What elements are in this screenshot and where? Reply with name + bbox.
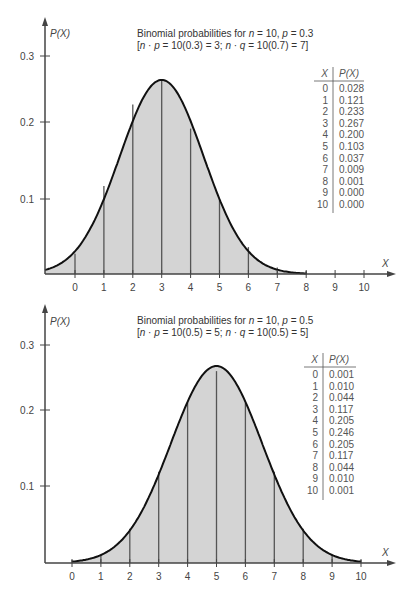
y-tick-label: 0.2	[20, 117, 34, 128]
table-cell-px: 0.001	[329, 485, 354, 496]
table-cell-px: 0.267	[339, 118, 364, 129]
x-axis-arrow-icon	[387, 560, 396, 566]
table-row: 60.037	[322, 153, 364, 164]
table-row: 30.267	[322, 118, 364, 129]
x-axis-label: X	[381, 258, 389, 269]
table-row: 80.044	[312, 462, 354, 473]
x-tick-label: 5	[214, 571, 220, 582]
table-cell-x: 1	[322, 95, 328, 106]
table-cell-x: 3	[312, 404, 318, 415]
x-tick-label: 4	[188, 282, 194, 293]
x-tick-label: 6	[246, 282, 252, 293]
table-row: 00.001	[312, 369, 354, 380]
table-cell-px: 0.246	[329, 427, 354, 438]
x-tick-label: 9	[329, 571, 335, 582]
y-tick-label: 0.3	[20, 340, 34, 351]
table-cell-px: 0.044	[329, 392, 354, 403]
table-cell-x: 0	[312, 369, 318, 380]
shaded-area	[45, 80, 307, 274]
table-row: 20.233	[322, 106, 364, 117]
chart-title: Binomial probabilities for n = 10, p = 0…	[137, 315, 314, 326]
x-tick-label: 6	[243, 571, 249, 582]
table-row: 70.009	[322, 164, 364, 175]
chart-title: Binomial probabilities for n = 10, p = 0…	[137, 28, 314, 39]
table-cell-x: 9	[322, 187, 328, 198]
table-cell-x: 9	[312, 473, 318, 484]
x-tick-label: 1	[101, 282, 107, 293]
table-cell-x: 0	[322, 83, 328, 94]
table-cell-x: 5	[322, 141, 328, 152]
table-row: 50.103	[322, 141, 364, 152]
x-tick-label: 10	[358, 282, 370, 293]
chart-binomial-p05: 0.30.20.1 012345678910 P(X) X Binomial p…	[20, 304, 396, 582]
table-cell-x: 7	[322, 164, 328, 175]
chart-binomial-p03: 0.30.20.1 012345678910 P(X) X Binomial p…	[20, 17, 396, 293]
table-cell-x: 10	[317, 199, 329, 210]
y-axis-arrow-icon	[42, 304, 48, 313]
table-row: 10.121	[322, 95, 364, 106]
x-tick-label: 9	[332, 282, 338, 293]
x-tick-label: 5	[217, 282, 223, 293]
probability-table: X P(X) 00.02810.12120.23330.26740.20050.…	[314, 67, 364, 213]
table-row: 00.028	[322, 83, 364, 94]
x-tick-label: 1	[98, 571, 104, 582]
table-cell-px: 0.044	[329, 462, 354, 473]
y-tick-label: 0.2	[20, 405, 34, 416]
table-row: 40.200	[322, 129, 364, 140]
table-row: 30.117	[312, 404, 353, 415]
table-cell-x: 8	[322, 176, 328, 187]
probability-table: X P(X) 00.00110.01020.04430.11740.20550.…	[304, 353, 356, 500]
binomial-figure: 0.30.20.1 012345678910 P(X) X Binomial p…	[0, 0, 411, 603]
table-cell-px: 0.009	[339, 164, 364, 175]
table-cell-x: 8	[312, 462, 318, 473]
chart-subtitle: [n · p = 10(0.5) = 5; n · q = 10(0.5) = …	[137, 327, 308, 338]
x-tick-label: 7	[272, 571, 278, 582]
table-row: 70.117	[312, 450, 353, 461]
table-row: 50.246	[312, 427, 354, 438]
table-cell-x: 2	[322, 106, 328, 117]
table-row: 10.010	[312, 381, 354, 392]
table-cell-px: 0.205	[329, 415, 354, 426]
x-axis-arrow-icon	[387, 271, 396, 277]
x-tick-label: 0	[69, 571, 75, 582]
table-cell-px: 0.000	[339, 187, 364, 198]
x-tick-label: 8	[300, 571, 306, 582]
table-cell-px: 0.117	[329, 450, 354, 461]
table-cell-px: 0.000	[339, 199, 364, 210]
x-tick-label: 7	[275, 282, 281, 293]
table-cell-px: 0.010	[329, 473, 354, 484]
x-axis-label: X	[381, 547, 389, 558]
y-tick-label: 0.3	[20, 51, 34, 62]
table-row: 90.000	[322, 187, 364, 198]
table-cell-px: 0.233	[339, 106, 364, 117]
table-cell-px: 0.117	[329, 404, 354, 415]
table-rows: 00.02810.12120.23330.26740.20050.10360.0…	[317, 83, 365, 210]
table-rows: 00.00110.01020.04430.11740.20550.24660.2…	[307, 369, 355, 496]
table-row: 40.205	[312, 415, 354, 426]
table-cell-px: 0.037	[339, 153, 364, 164]
x-tick-label: 2	[127, 571, 133, 582]
table-cell-x: 10	[307, 485, 319, 496]
y-axis-arrow-icon	[42, 17, 48, 26]
table-cell-px: 0.121	[339, 95, 364, 106]
table-cell-px: 0.010	[329, 381, 354, 392]
table-row: 20.044	[312, 392, 354, 403]
table-cell-x: 3	[322, 118, 328, 129]
table-cell-px: 0.001	[329, 369, 354, 380]
table-row: 90.010	[312, 473, 354, 484]
table-row: 80.001	[322, 176, 364, 187]
table-row: 100.001	[307, 485, 355, 496]
table-cell-x: 1	[312, 381, 318, 392]
table-cell-px: 0.205	[329, 439, 354, 450]
table-cell-px: 0.028	[339, 83, 364, 94]
x-tick-label: 2	[130, 282, 136, 293]
x-tick-label: 10	[355, 571, 367, 582]
table-header-px: P(X)	[339, 68, 359, 79]
table-row: 100.000	[317, 199, 365, 210]
x-tick-label: 3	[159, 282, 165, 293]
table-cell-x: 7	[312, 450, 318, 461]
table-cell-x: 2	[312, 392, 318, 403]
y-axis-label: P(X)	[50, 28, 70, 39]
table-header-px: P(X)	[329, 354, 349, 365]
y-axis-label: P(X)	[50, 316, 70, 327]
